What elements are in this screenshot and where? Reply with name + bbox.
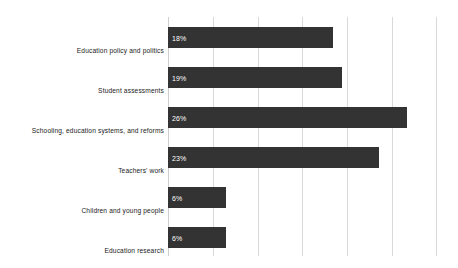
gridline-20 [347, 17, 348, 256]
bar-value-label: 19% [172, 74, 186, 81]
bar [168, 27, 333, 48]
bar-value-label: 23% [172, 154, 186, 161]
gridline-15 [302, 17, 303, 256]
gridline-25 [392, 17, 393, 256]
category-label: Education policy and politics [4, 48, 164, 55]
gridline-30 [436, 17, 437, 256]
bar [168, 107, 407, 128]
plot-area: 18% 19% 26% 23% 6% 6% [168, 17, 437, 256]
bar [168, 147, 379, 168]
bar [168, 67, 342, 88]
category-label: Student assessments [4, 88, 164, 95]
category-label: Teachers' work [4, 168, 164, 175]
bar-value-label: 18% [172, 34, 186, 41]
bar-chart: Education policy and politics Student as… [0, 0, 458, 268]
category-label: Children and young people [4, 208, 164, 215]
category-label: Schooling, education systems, and reform… [4, 128, 164, 135]
category-axis: Education policy and politics Student as… [0, 17, 164, 256]
gridline-10 [258, 17, 259, 256]
category-label: Education research [4, 248, 164, 255]
gridline-0 [168, 17, 169, 256]
bar-value-label: 6% [172, 194, 182, 201]
bar-value-label: 6% [172, 234, 182, 241]
bar-value-label: 26% [172, 114, 186, 121]
gridline-5 [213, 17, 214, 256]
